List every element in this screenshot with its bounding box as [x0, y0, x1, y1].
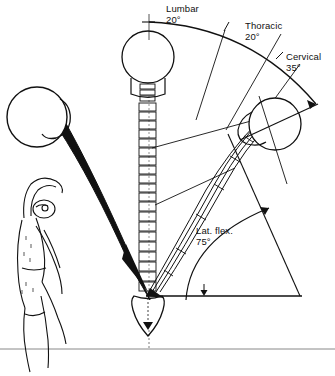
lumbar-thoracic-tick — [224, 22, 229, 31]
cervical-vertebrae-neutral — [140, 84, 155, 101]
label-lumbar: Lumbar 20° — [166, 3, 199, 25]
baseline-arrowhead — [201, 290, 208, 296]
lateral-flexion-diagram — [0, 0, 335, 376]
person-shading — [22, 236, 33, 294]
head-neutral-icon — [122, 31, 174, 83]
lumbar-leader-line — [196, 30, 225, 120]
label-lat-flex: Lat. flex. 75° — [196, 225, 233, 247]
shoulder-line-lower — [155, 168, 235, 205]
vertebral-column-neutral — [139, 103, 156, 291]
label-thoracic: Thoracic 20° — [245, 20, 282, 42]
head-flexed-left-icon — [7, 87, 67, 147]
flexed-spine-heavy-segments — [69, 118, 136, 239]
flexed-spine-outline — [150, 120, 268, 292]
range-arc-arrowhead — [307, 100, 316, 109]
label-cervical: Cervical 35° — [286, 51, 321, 73]
person-figure — [18, 178, 67, 372]
flexed-spine-outline-segments — [164, 136, 253, 276]
lat-flex-bound-line — [228, 134, 300, 296]
person-head — [33, 200, 55, 218]
thoracic-cervical-tick — [276, 52, 283, 59]
